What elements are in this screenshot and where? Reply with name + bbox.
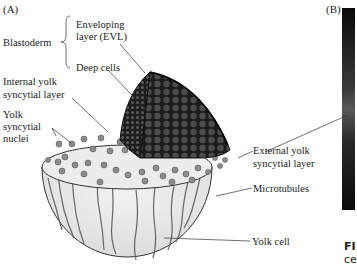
label-evl-2: layer (EVL) [76,31,127,43]
label-eysl-1: External yolk [253,145,310,157]
label-deep-cells: Deep cells [76,62,120,74]
label-iysl-1: Internal yolk [3,76,57,88]
label-evl-1: Enveloping [76,19,124,31]
photo-panel-b [342,8,355,210]
caption-line-1: FI [344,240,356,253]
figure-caption: FI ce [344,240,357,266]
label-ysn-3: nuclei [3,133,29,145]
label-microtubules: Microtubules [253,183,309,195]
label-iysl-2: syncytial layer [3,89,65,101]
blastoderm [120,72,230,158]
label-ysn-2: syncytial [3,121,41,133]
label-eysl-2: syncytial layer [253,158,315,170]
label-yolk-cell: Yolk cell [252,236,290,248]
label-ysn-1: Yolk [3,109,23,121]
panel-label-b: (B) [326,3,341,15]
caption-line-2: ce [344,253,357,266]
panel-label-a: (A) [3,3,18,15]
label-blastoderm: Blastoderm [3,37,51,49]
